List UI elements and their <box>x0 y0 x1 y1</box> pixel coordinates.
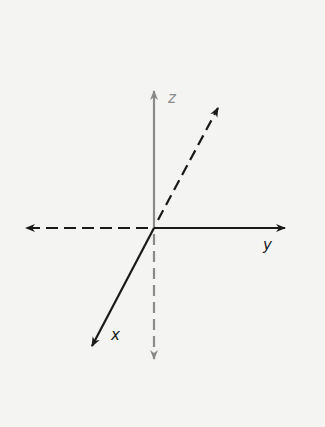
coordinate-diagram: z y x <box>0 0 325 427</box>
y-axis-label: y <box>263 238 272 253</box>
x-axis-label: x <box>111 328 120 343</box>
x-axis-negative <box>158 108 218 220</box>
axes-svg <box>0 0 325 427</box>
x-axis-positive <box>92 228 154 346</box>
z-axis-label: z <box>168 91 176 106</box>
